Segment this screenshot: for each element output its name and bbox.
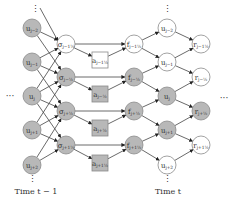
edge-arrow bbox=[40, 150, 58, 161]
horizontal-ellipsis-right: ··· bbox=[220, 93, 229, 103]
edge-arrow bbox=[142, 48, 159, 57]
r-node-1: rj−½ bbox=[192, 68, 210, 86]
time-next-label: Time t bbox=[155, 187, 182, 196]
sigma-node-0: σj−1½ bbox=[57, 35, 75, 53]
vertical-ellipsis-bottom-left: ⋮ bbox=[28, 174, 37, 184]
nodes: uj−2uj−1ujuj+1uj+2σj−1½σj−½σj+½σj+1½aj−1… bbox=[23, 19, 210, 174]
f-node-3: fj+1½ bbox=[125, 136, 143, 154]
graphical-model-diagram: uj−2uj−1ujuj+1uj+2σj−1½σj−½σj+½σj+1½aj−1… bbox=[0, 0, 238, 205]
f-node-2: fj+½ bbox=[125, 102, 143, 120]
edge-arrow bbox=[142, 32, 159, 40]
edge-arrow bbox=[142, 150, 160, 161]
sigma-node-3: σj+1½ bbox=[57, 136, 75, 154]
edge-arrow bbox=[142, 100, 159, 108]
vertical-ellipsis-top-left: ⋮ bbox=[31, 4, 40, 14]
u-prev-node-2: uj bbox=[23, 87, 41, 105]
edge-arrow bbox=[74, 115, 92, 124]
edge-arrow bbox=[175, 66, 193, 74]
r-node-0: rj−1½ bbox=[192, 35, 210, 53]
edge-arrow bbox=[175, 100, 193, 108]
horizontal-ellipsis-left: ··· bbox=[6, 91, 15, 101]
u-next-node-4: uj+2 bbox=[158, 156, 176, 174]
edge-arrow bbox=[142, 66, 159, 74]
f-node-0: fj−1½ bbox=[125, 35, 143, 53]
edge-arrow bbox=[74, 48, 92, 56]
edge-arrow bbox=[142, 115, 159, 125]
sigma-node-1: σj−½ bbox=[57, 68, 75, 86]
sigma-node-2: σj+½ bbox=[57, 102, 75, 120]
edge-arrow bbox=[142, 134, 159, 142]
a-node-3: aj+1½ bbox=[92, 155, 108, 171]
a-node-1: aj−½ bbox=[92, 86, 108, 102]
edge-arrow bbox=[40, 66, 58, 74]
edge-arrow bbox=[175, 81, 193, 91]
edge-arrow bbox=[37, 119, 61, 158]
edge-arrow bbox=[74, 149, 92, 159]
u-next-node-1: uj−1 bbox=[158, 53, 176, 71]
edge-arrow bbox=[108, 81, 126, 90]
a-node-0: aj−1½ bbox=[92, 52, 108, 68]
f-node-1: fj−½ bbox=[125, 68, 143, 86]
r-node-2: rj+½ bbox=[192, 102, 210, 120]
u-next-node-2: uj bbox=[158, 87, 176, 105]
u-prev-node-0: uj−2 bbox=[23, 19, 41, 37]
edge-arrow bbox=[142, 81, 159, 91]
a-node-2: aj+½ bbox=[92, 120, 108, 136]
vertical-ellipsis-bottom-right: ⋮ bbox=[163, 174, 172, 184]
edge-arrow bbox=[108, 115, 126, 124]
edge-arrow bbox=[74, 81, 92, 90]
u-next-node-0: uj−2 bbox=[158, 19, 176, 37]
edge-arrow bbox=[108, 149, 126, 159]
r-node-3: rj+1½ bbox=[192, 136, 210, 154]
u-next-node-3: uj+1 bbox=[158, 121, 176, 139]
edge-arrow bbox=[175, 115, 193, 125]
u-prev-node-1: uj−1 bbox=[23, 53, 41, 71]
edge-arrow bbox=[175, 48, 193, 58]
edge-arrow bbox=[175, 150, 193, 161]
time-prev-label: Time t − 1 bbox=[15, 187, 58, 196]
u-prev-node-3: uj+1 bbox=[23, 121, 41, 139]
edge-arrow bbox=[40, 134, 58, 142]
edge-arrow bbox=[175, 134, 193, 142]
edge-arrow bbox=[40, 100, 58, 108]
u-prev-node-4: uj+2 bbox=[23, 156, 41, 174]
vertical-ellipsis-top-right: ⋮ bbox=[163, 4, 172, 14]
edge-arrow bbox=[108, 48, 126, 56]
edge-arrow bbox=[175, 32, 193, 40]
